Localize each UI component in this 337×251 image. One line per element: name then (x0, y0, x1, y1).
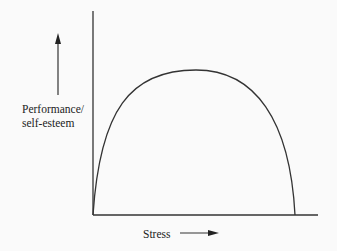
y-axis-label-line2: self-esteem (22, 116, 102, 130)
y-axis-label-line1: Performance/ (22, 102, 102, 116)
x-axis-label: Stress (143, 227, 170, 241)
right-arrow-head-icon (208, 230, 219, 236)
inverted-u-curve (93, 70, 295, 215)
up-arrow-head-icon (55, 33, 61, 44)
y-axis-label: Performance/ self-esteem (22, 102, 102, 130)
